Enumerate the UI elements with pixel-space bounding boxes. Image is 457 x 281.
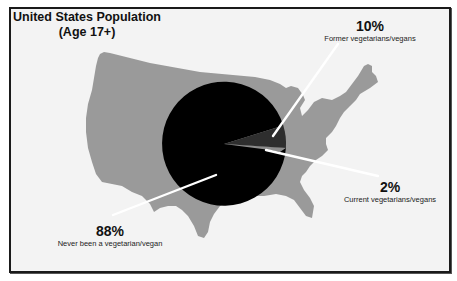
callout-former: 10% Former vegetarians/vegans <box>310 19 430 44</box>
callout-never-pct: 88% <box>45 224 175 239</box>
callout-current-desc: Current vegetarians/vegans <box>330 195 450 205</box>
callout-former-desc: Former vegetarians/vegans <box>310 34 430 44</box>
callout-former-pct: 10% <box>310 19 430 34</box>
chart-title: United States Population (Age 17+) <box>12 10 162 40</box>
chart-title-line2: (Age 17+) <box>12 25 162 40</box>
pie-chart <box>162 82 286 206</box>
chart-title-line1: United States Population <box>12 10 162 25</box>
callout-never-desc: Never been a vegetarian/vegan <box>45 239 175 249</box>
callout-current: 2% Current vegetarians/vegans <box>330 180 450 205</box>
callout-current-pct: 2% <box>330 180 450 195</box>
callout-never: 88% Never been a vegetarian/vegan <box>45 224 175 249</box>
